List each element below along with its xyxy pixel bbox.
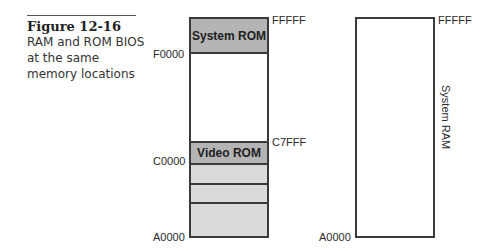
address-fffff-left: FFFFF: [272, 14, 306, 26]
video-rom-label: Video ROM: [197, 146, 261, 160]
left-memory-map: System ROM Video ROM: [189, 17, 269, 238]
figure-caption: RAM and ROM BIOS at the same memory loca…: [27, 34, 147, 82]
system-rom-label: System ROM: [192, 29, 266, 43]
figure-title: Figure 12-16: [27, 19, 121, 34]
system-ram-label: System RAM: [440, 85, 452, 149]
system-rom-region: System ROM: [191, 19, 267, 54]
low-region-3: [191, 202, 267, 236]
address-a0000-right: A0000: [319, 231, 351, 243]
address-f0000: F0000: [153, 48, 184, 60]
video-rom-region: Video ROM: [191, 141, 267, 165]
address-c0000: C0000: [153, 155, 185, 167]
address-c7fff: C7FFF: [272, 136, 306, 148]
right-memory-map: [355, 17, 435, 238]
address-a0000-left: A0000: [153, 231, 185, 243]
address-fffff-right: FFFFF: [438, 14, 472, 26]
low-region-2: [191, 183, 267, 202]
low-region-1: [191, 165, 267, 183]
caption-rule: [27, 15, 136, 16]
